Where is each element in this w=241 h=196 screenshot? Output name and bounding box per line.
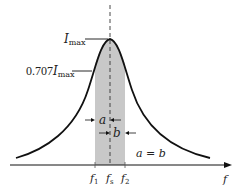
- half-power-label: 0.707Imax: [26, 64, 75, 79]
- x-axis-label: f: [222, 173, 229, 186]
- a-arrow-left-head-icon: [91, 118, 95, 122]
- f1-label: f1: [89, 172, 99, 186]
- resonance-curve-diagram: Imax 0.707Imax a b a = b f1 fs f2 f: [0, 0, 241, 196]
- a-equals-b-label: a = b: [136, 147, 166, 160]
- imax-label: Imax: [63, 32, 86, 47]
- a-label: a: [99, 113, 106, 127]
- f2-label: f2: [120, 172, 130, 186]
- b-label: b: [113, 126, 121, 140]
- x-axis-arrow-icon: [224, 162, 232, 168]
- b-arrow-right-head-icon: [125, 131, 129, 135]
- fs-label: fs: [105, 172, 114, 186]
